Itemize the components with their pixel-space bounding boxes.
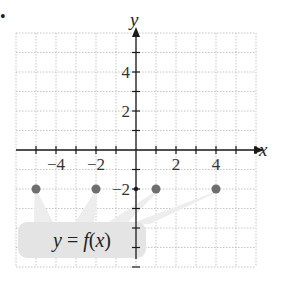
- callout-leader: [74, 192, 98, 224]
- label-paren-close: ): [104, 229, 111, 252]
- data-point: [92, 185, 101, 194]
- callout-leader: [34, 192, 54, 224]
- y-tick-label: 4: [122, 63, 131, 82]
- coordinate-plane: • y = f(x) x y −4−22442−2: [0, 0, 282, 281]
- y-axis-name: y: [128, 9, 139, 30]
- problem-marker: •: [0, 8, 6, 25]
- x-tick-label: 2: [172, 155, 181, 174]
- function-label: y = f(x): [51, 229, 111, 252]
- data-point: [32, 185, 41, 194]
- axis-point-marker: [134, 187, 138, 191]
- label-equals: =: [62, 229, 83, 251]
- x-axis-name: x: [258, 139, 268, 160]
- label-x: x: [94, 229, 104, 251]
- data-point: [152, 185, 161, 194]
- x-tick-label: 4: [212, 155, 221, 174]
- y-tick-label: 2: [122, 102, 131, 121]
- label-y: y: [51, 229, 62, 252]
- function-graph-figure: • y = f(x) x y −4−22442−2: [0, 0, 282, 281]
- x-tick-label: −2: [87, 155, 105, 174]
- y-tick-label: −2: [112, 180, 130, 199]
- x-tick-label: −4: [47, 155, 66, 174]
- data-point: [212, 185, 221, 194]
